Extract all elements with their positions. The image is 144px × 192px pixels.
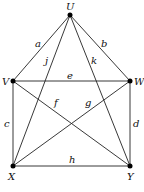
edge-label-c: c xyxy=(4,118,10,129)
labels: abjkecdfghUVWXY xyxy=(2,1,144,182)
edge-b xyxy=(70,15,130,81)
node-V xyxy=(11,79,16,84)
edge-label-e: e xyxy=(67,70,73,81)
node-W xyxy=(128,79,133,84)
node-label-Y: Y xyxy=(127,171,135,182)
node-label-V: V xyxy=(2,76,11,87)
node-U xyxy=(68,13,73,18)
edge-label-j: j xyxy=(43,55,48,66)
edge-j xyxy=(13,15,70,166)
edge-label-b: b xyxy=(101,38,107,49)
edge-a xyxy=(13,15,70,81)
edges xyxy=(13,15,130,166)
node-Y xyxy=(128,164,133,169)
edge-label-k: k xyxy=(91,55,97,66)
edge-label-f: f xyxy=(53,97,60,108)
node-label-X: X xyxy=(7,171,16,182)
edge-label-h: h xyxy=(69,154,75,165)
edge-label-d: d xyxy=(133,118,139,129)
node-label-W: W xyxy=(134,76,144,87)
edge-label-a: a xyxy=(35,38,41,49)
edge-k xyxy=(70,15,130,166)
graph-diagram: abjkecdfghUVWXY xyxy=(0,0,144,192)
nodes xyxy=(11,13,133,169)
node-X xyxy=(11,164,16,169)
edge-label-g: g xyxy=(85,97,91,108)
node-label-U: U xyxy=(66,1,75,12)
